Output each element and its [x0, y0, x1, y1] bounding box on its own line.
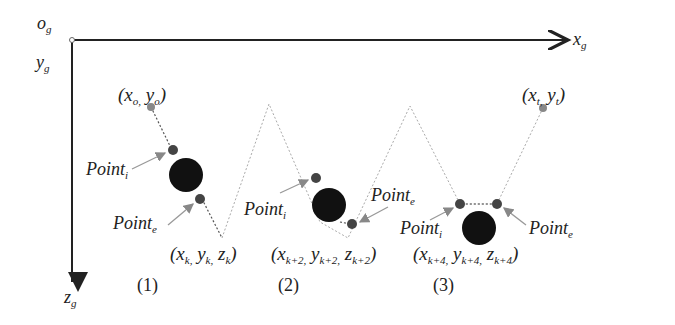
point-e-label-2: Pointe	[371, 186, 415, 207]
z-axis-label: zg	[64, 288, 77, 309]
obstacle-2	[312, 188, 346, 222]
coord-label-2: (xk+2, yk+2, zk+2)	[271, 244, 376, 266]
point-i-2	[311, 173, 321, 183]
point-i-3	[455, 199, 465, 209]
point-e-3	[492, 199, 502, 209]
point-i-label-2: Pointi	[244, 200, 286, 221]
panel-3	[430, 199, 526, 245]
point-e-1	[195, 194, 205, 204]
coord-label-1: (xk, yk, zk)	[170, 244, 237, 266]
point-e-label-1: Pointe	[113, 214, 157, 235]
point-e-2	[347, 219, 357, 229]
origin-icon	[70, 38, 75, 43]
point-i-1	[168, 145, 178, 155]
coord-label-3: (xk+4, yk+4, zk+4)	[413, 244, 518, 266]
start-point-label: (xo, yo)	[118, 85, 166, 107]
panel-number-3: (3)	[433, 276, 454, 294]
origin-label: og	[37, 14, 52, 35]
target-point-label: (xt, yt)	[522, 85, 565, 107]
x-axis-label: xg	[573, 30, 587, 51]
point-e-label-3: Pointe	[529, 219, 573, 240]
point-i-label-3: Pointi	[400, 219, 442, 240]
y-axis-label: yg	[36, 53, 50, 74]
obstacle-3	[462, 211, 496, 245]
panel-number-1: (1)	[137, 276, 158, 294]
panel-number-2: (2)	[278, 276, 299, 294]
point-i-label-1: Pointi	[86, 160, 128, 181]
obstacle-1	[169, 158, 203, 192]
